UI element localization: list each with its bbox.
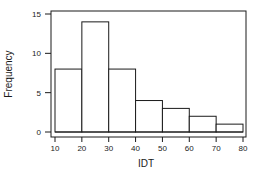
- histogram-bars: [55, 22, 243, 132]
- histogram-chart: 051015 1020304050607080 IDT Frequency: [0, 0, 260, 173]
- y-tick-label: 5: [37, 89, 42, 98]
- x-tick-label: 10: [51, 144, 60, 153]
- y-tick-label: 0: [37, 128, 42, 137]
- histogram-bar: [162, 108, 189, 132]
- y-axis-label: Frequency: [3, 50, 14, 97]
- histogram-bar: [82, 22, 109, 132]
- x-tick-label: 70: [212, 144, 221, 153]
- y-tick-label: 10: [32, 49, 41, 58]
- x-tick-label: 30: [104, 144, 113, 153]
- x-tick-label: 60: [185, 144, 194, 153]
- x-tick-label: 80: [239, 144, 248, 153]
- x-tick-label: 20: [77, 144, 86, 153]
- y-tick-label: 15: [32, 10, 41, 19]
- histogram-bar: [136, 101, 163, 132]
- histogram-bar: [55, 69, 82, 132]
- histogram-bar: [216, 124, 243, 132]
- histogram-bar: [189, 116, 216, 132]
- x-axis: 1020304050607080: [51, 137, 248, 153]
- x-axis-label: IDT: [138, 158, 154, 169]
- histogram-bar: [109, 69, 136, 132]
- x-tick-label: 50: [158, 144, 167, 153]
- x-tick-label: 40: [131, 144, 140, 153]
- y-axis: 051015: [32, 10, 51, 137]
